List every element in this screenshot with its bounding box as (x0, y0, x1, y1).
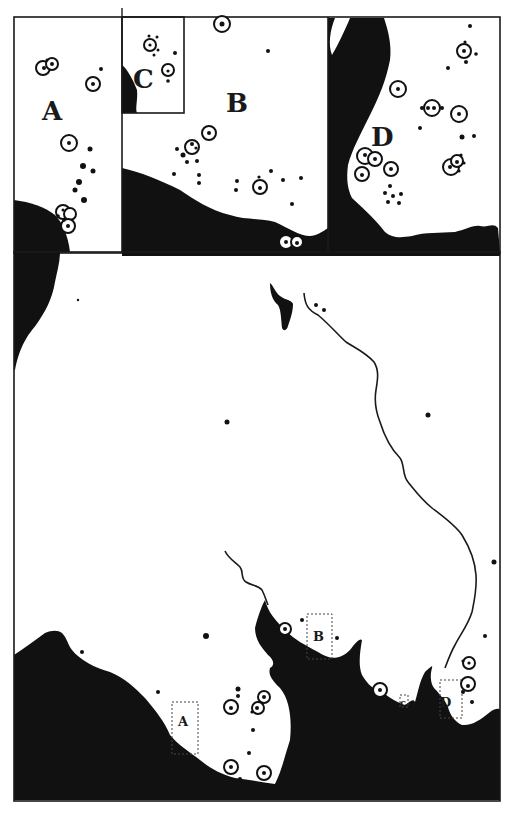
inset-panels: A B C D (14, 8, 500, 253)
inset-strip-frame (14, 17, 500, 253)
main-land-northwest (14, 252, 60, 370)
main-river-east (304, 293, 476, 668)
marker-a-label: A (177, 714, 189, 729)
map-figure: A B C D (0, 0, 518, 815)
marker-b-label: B (313, 629, 324, 644)
inset-d-label: D (371, 122, 394, 152)
main-island (270, 283, 293, 330)
marker-c-label: c (400, 697, 406, 708)
inset-a-sites (36, 58, 103, 233)
inset-c-label: C (133, 64, 154, 94)
main-map: A B c D (14, 252, 500, 801)
inset-a-label: A (41, 96, 63, 126)
marker-d-label: D (440, 695, 451, 710)
inset-b-label: B (226, 88, 248, 118)
main-river-west (225, 551, 268, 605)
